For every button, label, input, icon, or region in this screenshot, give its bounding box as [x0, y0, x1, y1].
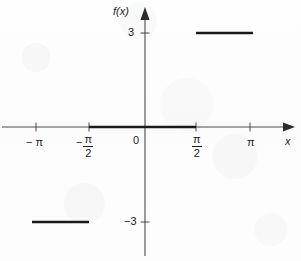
y-tick-label-negative-3: −3	[124, 216, 137, 227]
y-axis-arrowhead	[140, 7, 149, 20]
y-axis-label: f(x)	[113, 6, 129, 17]
fraction-numerator: π	[83, 134, 93, 146]
fraction-stack: π 2	[192, 134, 202, 159]
x-axis-label: x	[285, 136, 291, 147]
x-tick-label-pi: π	[247, 137, 255, 148]
y-tick-label-3: 3	[128, 27, 134, 38]
origin-label: 0	[133, 135, 139, 146]
x-axis-arrowhead	[283, 122, 295, 131]
fraction-denominator: 2	[84, 147, 92, 159]
fraction-stack: π 2	[83, 134, 93, 159]
fraction-minus-sign: −	[76, 134, 82, 148]
fraction-numerator: π	[192, 134, 202, 146]
fraction-denominator: 2	[193, 147, 201, 159]
function-graph-figure: f(x) x 3 −3 − π π 0 − π 2 π 2	[0, 0, 301, 261]
x-tick-label-negative-pi-over-2: − π 2	[76, 134, 93, 159]
x-tick-label-negative-pi: − π	[26, 137, 43, 148]
plot-canvas	[0, 0, 301, 261]
x-tick-label-pi-over-2: π 2	[192, 134, 202, 159]
